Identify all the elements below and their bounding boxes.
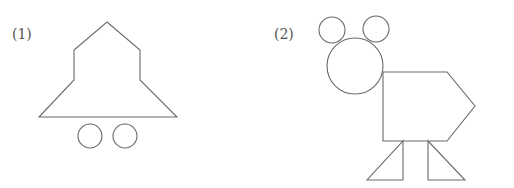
animal-ear-left <box>319 17 345 43</box>
animal-leg-left <box>367 141 403 180</box>
figure-1-bell <box>39 22 177 148</box>
animal-ear-right <box>363 16 389 42</box>
animal-head <box>327 38 383 94</box>
animal-body <box>383 72 475 141</box>
animal-leg-right <box>428 141 465 180</box>
diagram-canvas <box>0 0 514 188</box>
bell-circle-right <box>113 124 137 148</box>
bell-outline <box>39 22 177 117</box>
figure-2-animal <box>319 16 475 180</box>
bell-circle-left <box>78 124 102 148</box>
